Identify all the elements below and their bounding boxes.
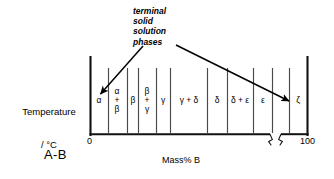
annotation-arrow-to-alpha — [101, 46, 144, 94]
phase-label-delta-epsilon: δ + ε — [231, 96, 249, 106]
phase-label-alpha: α — [97, 96, 102, 106]
y-axis-label-line1: Temperature — [12, 106, 86, 117]
phase-label-delta: δ — [215, 96, 220, 106]
x-tick-label-0: 0 — [87, 136, 92, 146]
phase-label-zeta: ζ — [296, 96, 300, 106]
phase-label-beta-gamma: β + γ — [145, 87, 150, 115]
x-axis-break-icon — [269, 134, 283, 145]
phase-label-beta: β — [131, 96, 136, 106]
phase-diagram-figure: terminal solid solution phases Temperatu… — [0, 0, 334, 179]
phase-label-gamma-delta: γ + δ — [180, 96, 199, 106]
x-tick-label-100: 100 — [300, 136, 315, 146]
system-label: A-B — [44, 148, 67, 163]
phase-label-alpha-beta: α + β — [115, 87, 120, 115]
phase-label-epsilon: ε — [261, 96, 265, 106]
annotation-terminal-solid-solution-phases: terminal solid solution phases — [133, 6, 166, 47]
phase-label-gamma: γ — [161, 96, 165, 106]
x-axis-label: Mass% B — [162, 155, 200, 165]
